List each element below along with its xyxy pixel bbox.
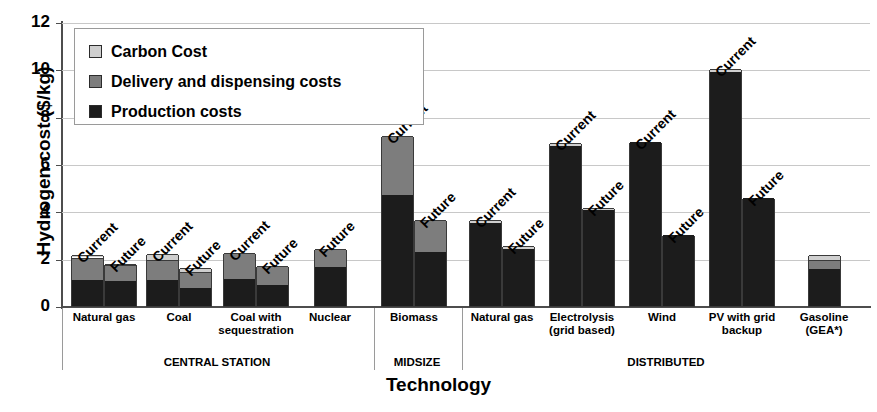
bar-segment-prod (147, 280, 178, 306)
legend-item-delivery-costs: Delivery and dispensing costs (89, 68, 423, 95)
bar (549, 144, 582, 307)
legend-swatch-carbon-cost (89, 45, 102, 58)
category-label-line: (grid based) (522, 324, 642, 337)
legend-label-delivery-costs: Delivery and dispensing costs (111, 73, 341, 91)
legend-item-carbon-cost: Carbon Cost (89, 38, 423, 65)
group-label: MIDSIZE (374, 356, 460, 368)
bar-segment-prod (105, 281, 136, 306)
bar-segment-prod (470, 223, 501, 306)
bar-segment-prod (415, 252, 446, 306)
bar (381, 137, 414, 307)
bar-segment-prod (72, 280, 103, 306)
y-tick-label-8: 8 (26, 107, 50, 127)
bar-segment-prod (663, 235, 694, 306)
bar (223, 254, 256, 307)
bar (502, 247, 535, 307)
y-tick-label-6: 6 (26, 154, 50, 174)
bar (71, 256, 104, 307)
category-label-line: sequestration (196, 324, 316, 337)
legend-swatch-production-costs (89, 105, 102, 118)
y-tick-mark-6 (56, 165, 62, 166)
category-label: Gasoline(GEA*) (764, 311, 877, 337)
y-tick-mark-4 (56, 212, 62, 213)
y-tick-label-10: 10 (26, 59, 50, 79)
y-tick-mark-8 (56, 118, 62, 119)
group-separator (62, 308, 63, 370)
bar-segment-prod (550, 146, 581, 306)
bar-segment-deliv (809, 260, 840, 269)
bar-segment-prod (710, 72, 741, 306)
bar-segment-deliv (147, 260, 178, 280)
gridline-12 (62, 23, 870, 24)
legend-label-carbon-cost: Carbon Cost (111, 43, 207, 61)
bar-segment-prod (382, 195, 413, 306)
bar (709, 70, 742, 307)
y-tick-mark-2 (56, 260, 62, 261)
chart-figure: Hydrogen cost ($/kg) 024681012CurrentFut… (0, 0, 877, 412)
chart-legend: Carbon Cost Delivery and dispensing cost… (74, 28, 424, 125)
group-label: DISTRIBUTED (462, 356, 870, 368)
bar-segment-prod (180, 288, 211, 306)
bar-segment-prod (503, 249, 534, 306)
bar (146, 255, 179, 307)
bar-segment-prod (583, 210, 614, 306)
y-tick-label-12: 12 (26, 12, 50, 32)
gridline-6 (62, 165, 870, 166)
group-label: CENTRAL STATION (62, 356, 372, 368)
bar (414, 221, 447, 307)
x-axis-title: Technology (0, 374, 877, 396)
y-tick-mark-12 (56, 23, 62, 24)
category-label-line: Gasoline (764, 311, 877, 324)
bar-segment-carbon (809, 255, 840, 260)
bar (808, 256, 841, 307)
bar-segment-prod (315, 267, 346, 306)
y-tick-label-2: 2 (26, 249, 50, 269)
category-axis-band: Natural gasCoalCoal withsequestrationNuc… (62, 308, 870, 370)
category-label-line: (GEA*) (764, 324, 877, 337)
legend-label-production-costs: Production costs (111, 103, 242, 121)
bar (582, 209, 615, 307)
legend-swatch-delivery-costs (89, 75, 102, 88)
bar (469, 221, 502, 307)
y-tick-mark-10 (56, 70, 62, 71)
bar (742, 199, 775, 307)
bar-segment-prod (630, 142, 661, 306)
bar (662, 236, 695, 307)
legend-item-production-costs: Production costs (89, 98, 423, 125)
bar-segment-prod (257, 285, 288, 306)
y-tick-label-4: 4 (26, 201, 50, 221)
bar-segment-prod (809, 269, 840, 306)
bar (629, 143, 662, 307)
bar-segment-prod (224, 279, 255, 306)
bar (314, 250, 347, 307)
bar-segment-prod (743, 198, 774, 306)
